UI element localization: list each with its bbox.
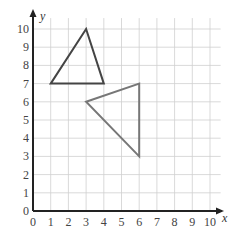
y-tick-label: 8 [23,58,29,72]
y-tick-label: 5 [23,113,29,127]
x-tick-label: 3 [83,215,89,229]
x-tick-label: 5 [119,215,125,229]
grid-lines [33,18,221,211]
x-tick-label: 10 [204,215,216,229]
triangle-A [51,29,104,84]
coordinate-grid-chart: 012345678910012345678910 x y [0,0,236,242]
y-tick-label: 0 [23,204,29,218]
x-tick-label: 1 [48,215,54,229]
y-tick-label: 3 [23,149,29,163]
x-axis-label: x [221,211,228,225]
x-tick-label: 6 [136,215,142,229]
x-tick-label: 9 [189,215,195,229]
x-tick-label: 8 [172,215,178,229]
y-tick-label: 4 [23,131,29,145]
y-tick-label: 7 [23,77,29,91]
y-tick-label: 10 [17,22,29,36]
triangles [51,29,140,156]
y-tick-label: 1 [23,186,29,200]
tick-labels: 012345678910012345678910 [17,22,216,229]
x-tick-label: 2 [65,215,71,229]
y-axis-arrow-icon [30,9,37,17]
x-tick-label: 0 [30,215,36,229]
y-tick-label: 2 [23,168,29,182]
x-tick-label: 4 [101,215,107,229]
y-axis-label: y [39,9,46,23]
axes [30,9,225,215]
x-tick-label: 7 [154,215,160,229]
y-tick-label: 6 [23,95,29,109]
y-tick-label: 9 [23,40,29,54]
